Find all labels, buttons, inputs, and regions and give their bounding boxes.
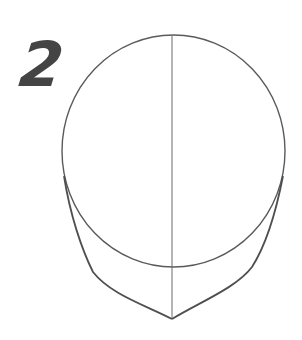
head-construction-drawing xyxy=(0,0,302,340)
jaw-outline-right xyxy=(172,176,283,319)
cranium-circle xyxy=(62,35,285,267)
jaw-outline-left xyxy=(64,176,172,319)
